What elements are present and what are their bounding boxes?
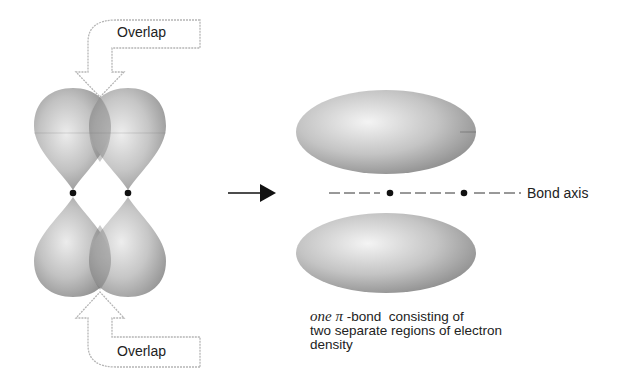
pi-cloud-upper (296, 90, 476, 174)
top-overlap-label: Overlap (117, 24, 166, 40)
bond-axis (329, 190, 521, 197)
nucleus-left (70, 190, 77, 197)
caption-line-3: density (310, 338, 502, 352)
pi-symbol: π (335, 308, 343, 324)
caption-line-2: two separate regions of electron (310, 324, 502, 338)
caption-line1-text: -bond consisting of (347, 309, 464, 324)
caption-line-1: one π -bond consisting of (310, 309, 502, 324)
caption-italic: one (310, 308, 332, 324)
bond-axis-label: Bond axis (527, 185, 588, 201)
caption: one π -bond consisting of two separate r… (310, 309, 502, 352)
nucleus-axis-2 (461, 190, 468, 197)
overlap-region (89, 97, 111, 290)
nucleus-right (125, 190, 132, 197)
bottom-overlap-label: Overlap (117, 343, 166, 359)
right-arrow-icon (228, 184, 276, 202)
pi-cloud-lower (296, 213, 476, 293)
nucleus-axis-1 (387, 190, 394, 197)
